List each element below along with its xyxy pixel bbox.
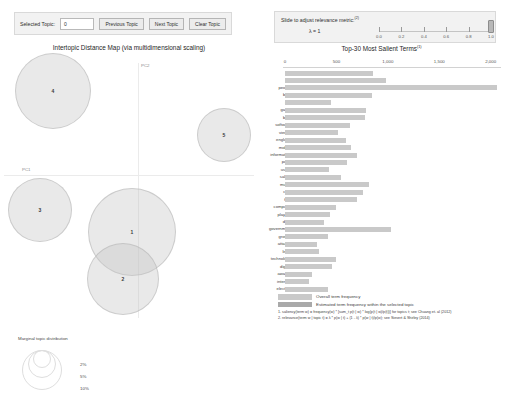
bar-overall-frequency	[285, 234, 328, 239]
next-topic-button[interactable]: Next Topic	[149, 18, 184, 30]
bar-row[interactable]: attacks	[258, 241, 505, 247]
bar-overall-frequency	[285, 205, 336, 210]
lambda-tick-label: 0.4	[421, 34, 427, 39]
previous-topic-button[interactable]: Previous Topic	[99, 18, 143, 30]
selected-topic-input[interactable]: 0	[60, 18, 94, 30]
bar-row[interactable]: mobile	[258, 145, 505, 151]
bar-term-label[interactable]: best	[231, 92, 291, 97]
bar-term-label[interactable]: lines	[231, 249, 291, 254]
bar-row[interactable]: lines	[258, 249, 505, 255]
bar-term-label[interactable]: information	[231, 152, 291, 157]
footnote-relevance: 2. relevance(term w | topic t) = λ * p(w…	[278, 316, 503, 322]
relevance-metric-bar: Slide to adjust relevance metric:(2) λ =…	[274, 11, 496, 43]
bar-term-label[interactable]: music	[231, 182, 291, 187]
bar-term-label[interactable]: viewer	[231, 130, 291, 135]
bar-row[interactable]: government	[258, 226, 505, 232]
lambda-tick-label: 0.2	[398, 34, 404, 39]
bar-term-label[interactable]: game	[231, 107, 291, 112]
bar-term-label[interactable]: salary	[231, 174, 291, 179]
bar-row[interactable]: digital	[258, 264, 505, 270]
bar-row[interactable]: information	[258, 152, 505, 158]
marginal-topic-legend: Marginal topic distribution 2% 5% 10%	[18, 336, 128, 394]
bar-row[interactable]: data	[258, 219, 505, 225]
bar-overall-frequency	[285, 123, 350, 128]
bar-row[interactable]: music	[258, 182, 505, 188]
bar-row[interactable]: file	[258, 70, 505, 76]
bar-term-label[interactable]: data	[231, 219, 291, 224]
bar-term-label[interactable]: england	[231, 137, 291, 142]
bar-row[interactable]: growth	[258, 234, 505, 240]
bar-row[interactable]: fine	[258, 197, 505, 203]
lambda-value-label: λ = 1	[309, 28, 320, 34]
bar-term-label[interactable]: digital	[231, 264, 291, 269]
bar-term-label[interactable]: players	[231, 212, 291, 217]
bar-overall-frequency	[285, 78, 386, 83]
bar-term-label[interactable]: users	[231, 167, 291, 172]
bar-row[interactable]: computer	[258, 204, 505, 210]
bar-term-label[interactable]: cost	[231, 189, 291, 194]
salient-terms-chart: 05001,0001,5002,000 fileonpeoplebestnetg…	[258, 54, 505, 294]
topic-bubble-label-1: 1	[131, 229, 134, 235]
bar-term-label[interactable]: growth	[231, 234, 291, 239]
bar-row[interactable]: party	[258, 159, 505, 165]
bar-overall-frequency	[285, 153, 357, 158]
bar-row[interactable]: cost	[258, 189, 505, 195]
bar-overall-frequency	[285, 264, 332, 269]
lambda-tick-mark	[379, 27, 380, 32]
bar-term-label[interactable]: software	[231, 122, 291, 127]
bar-term-label[interactable]: attacks	[231, 241, 291, 246]
bar-overall-frequency	[285, 93, 372, 98]
lambda-slider-track[interactable]	[379, 31, 491, 32]
legend-row-overall: Overall term frequency	[278, 294, 503, 300]
bar-row[interactable]: viewer	[258, 130, 505, 136]
bar-term-label[interactable]: awards	[231, 271, 291, 276]
legend-pct-2: 2%	[80, 362, 86, 367]
bar-overall-frequency	[285, 190, 363, 195]
bar-row[interactable]: users	[258, 167, 505, 173]
lambda-slider-handle[interactable]	[488, 20, 494, 33]
bar-term-label[interactable]: file	[231, 70, 291, 75]
x-tick-label: 2,000	[485, 59, 496, 64]
bar-row[interactable]: england	[258, 137, 505, 143]
bar-term-label[interactable]: technology	[231, 256, 291, 261]
bar-term-label[interactable]: mobile	[231, 145, 291, 150]
bar-term-label[interactable]: internet	[231, 279, 291, 284]
lambda-tick-mark	[469, 27, 470, 32]
bar-overall-frequency	[285, 227, 391, 232]
legend-label-estimated: Estimated term frequency within the sele…	[316, 302, 414, 307]
x-tick-label: 1,500	[434, 59, 445, 64]
bar-row[interactable]: election	[258, 286, 505, 292]
bar-row[interactable]: best	[258, 92, 505, 98]
pc1-axis-line	[4, 175, 254, 176]
bar-term-label[interactable]: on	[231, 77, 291, 82]
bar-term-label[interactable]: fine	[231, 197, 291, 202]
bar-row[interactable]: salary	[258, 174, 505, 180]
bar-row[interactable]: technology	[258, 256, 505, 262]
legend-swatch-estimated	[278, 302, 312, 308]
bar-term-label[interactable]: net	[231, 100, 291, 105]
bar-row[interactable]: blue	[258, 115, 505, 121]
bar-row[interactable]: players	[258, 212, 505, 218]
bar-term-label[interactable]: election	[231, 286, 291, 291]
intertopic-distance-map[interactable]: PC2 PC1 45312 Marginal topic distributio…	[0, 55, 258, 340]
x-tick-label: 1,000	[382, 59, 393, 64]
bar-row[interactable]: on	[258, 77, 505, 83]
salient-terms-title-text: Top-30 Most Salient Terms	[341, 45, 417, 52]
topic-bubble-label-5: 5	[223, 132, 226, 138]
bar-row[interactable]: people	[258, 85, 505, 91]
bar-row[interactable]: internet	[258, 279, 505, 285]
bar-row[interactable]: awards	[258, 271, 505, 277]
bar-row[interactable]: software	[258, 122, 505, 128]
bar-row[interactable]: game	[258, 107, 505, 113]
bar-term-label[interactable]: people	[231, 85, 291, 90]
bar-term-label[interactable]: computer	[231, 204, 291, 209]
bar-term-label[interactable]: government	[231, 226, 291, 231]
bar-term-label[interactable]: party	[231, 159, 291, 164]
lambda-tick-mark	[446, 27, 447, 32]
bar-overall-frequency	[285, 212, 330, 217]
clear-topic-button[interactable]: Clear Topic	[189, 18, 226, 30]
bar-row[interactable]: net	[258, 100, 505, 106]
lambda-tick-mark	[424, 27, 425, 32]
legend-row-estimated: Estimated term frequency within the sele…	[278, 302, 503, 308]
bar-term-label[interactable]: blue	[231, 115, 291, 120]
